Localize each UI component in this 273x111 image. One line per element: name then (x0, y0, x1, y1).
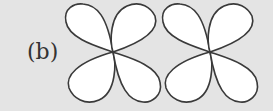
lobe-lower-left (165, 52, 211, 102)
lobe-upper-left (66, 4, 113, 52)
figure-canvas: (b) (0, 0, 273, 111)
lobe-lower-right (210, 52, 257, 102)
lobe-upper-right (208, 4, 253, 52)
lobe-upper-left (163, 4, 210, 52)
lobe-lower-right (113, 52, 160, 102)
lobe-lower-left (68, 52, 114, 102)
lobe-upper-right (111, 4, 156, 52)
left-clover (66, 4, 161, 102)
orbital-diagram (0, 0, 273, 111)
right-clover (163, 4, 258, 102)
